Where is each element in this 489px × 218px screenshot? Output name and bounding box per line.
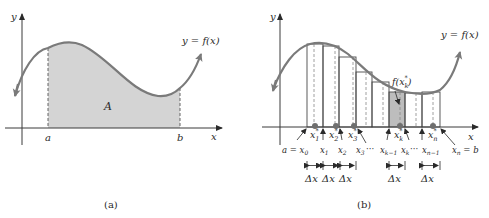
svg-text:Δx: Δx xyxy=(387,173,401,184)
panel-a: y x y = f(x) A a b (a) xyxy=(5,11,222,210)
bound-a-label: a xyxy=(45,132,51,143)
curve-f xyxy=(273,43,460,94)
curve-left-arrow xyxy=(273,80,276,91)
sample-point-labels: x1* x2* x3* xk* xn* xyxy=(310,127,438,143)
rectangle-n xyxy=(422,92,440,127)
curve-label: y = f(x) xyxy=(440,29,479,40)
svg-text:x1: x1 xyxy=(320,145,329,156)
svg-text:x3: x3 xyxy=(356,145,365,156)
curve-left-arrow xyxy=(15,84,18,96)
rectangle-7 xyxy=(405,93,422,127)
riemann-sum-figure: y x y = f(x) A a b (a) xyxy=(0,0,489,218)
bound-b-label: b xyxy=(177,132,183,143)
y-axis-label: y xyxy=(269,11,276,22)
svg-text:x2*: x2* xyxy=(329,127,339,143)
area-label: A xyxy=(103,100,112,113)
rectangle-3 xyxy=(339,57,356,127)
panel-b: f(xk*) x1* x2* x3* xk* xn* a = x0 x1 x2 … xyxy=(262,11,479,210)
svg-text:xk*: xk* xyxy=(394,127,403,143)
svg-text:Δx: Δx xyxy=(338,173,352,184)
svg-text:Δx: Δx xyxy=(420,173,434,184)
svg-text:···: ··· xyxy=(366,144,374,154)
svg-text:Δx: Δx xyxy=(321,173,335,184)
curve-label: y = f(x) xyxy=(181,35,220,46)
y-axis-label: y xyxy=(10,11,17,22)
svg-text:xn*: xn* xyxy=(428,127,438,143)
svg-text:xn−1: xn−1 xyxy=(422,145,440,156)
svg-text:x1*: x1* xyxy=(310,127,320,143)
partition-labels: a = x0 x1 x2 x3 ··· xk−1 xk ··· xn−1 xn … xyxy=(282,144,479,156)
svg-text:xk: xk xyxy=(401,145,410,156)
rectangle-2 xyxy=(323,46,339,127)
riemann-rectangles xyxy=(307,44,440,127)
delta-x-labels: Δx Δx Δx Δx Δx xyxy=(304,173,434,184)
x-axis-label: x xyxy=(211,131,217,142)
area-under-curve xyxy=(48,42,180,128)
panel-b-caption: (b) xyxy=(357,199,371,210)
rectangle-1 xyxy=(307,44,323,127)
sample-dashed-lines xyxy=(314,44,433,127)
rectangle-4 xyxy=(356,72,372,127)
svg-text:xn = b: xn = b xyxy=(452,145,479,156)
svg-text:x3*: x3* xyxy=(348,127,358,143)
delta-x-indicators xyxy=(307,161,440,170)
panel-a-caption: (a) xyxy=(104,199,118,210)
x-axis-label: x xyxy=(468,131,474,142)
svg-text:x2: x2 xyxy=(338,145,347,156)
svg-text:···: ··· xyxy=(410,144,418,154)
svg-text:xk−1: xk−1 xyxy=(380,145,397,156)
svg-text:a = x0: a = x0 xyxy=(282,145,308,156)
svg-text:Δx: Δx xyxy=(304,173,318,184)
rectangle-5 xyxy=(372,82,389,127)
